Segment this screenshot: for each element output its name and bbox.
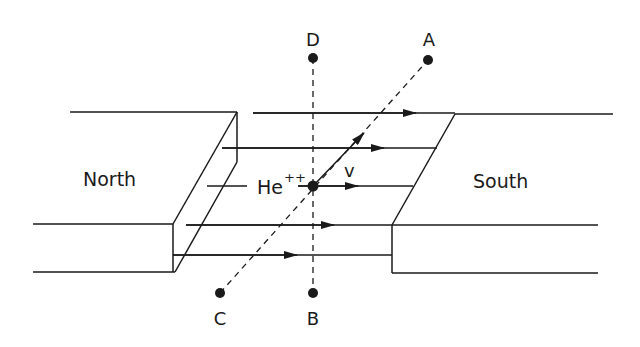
label-particle: He	[257, 176, 283, 198]
label-a: A	[423, 29, 436, 50]
south-pole-block	[392, 114, 613, 273]
label-c: C	[214, 308, 227, 329]
point-d-dot	[308, 53, 318, 63]
point-b-dot	[308, 288, 318, 298]
label-velocity: v	[344, 160, 355, 181]
path-ca-dashed	[220, 60, 428, 293]
label-d: D	[306, 29, 320, 50]
magnetic-field-diagram: D A C B North South He ++ v	[0, 0, 640, 347]
label-south: South	[473, 170, 528, 192]
point-c-dot	[215, 288, 225, 298]
label-north: North	[83, 168, 136, 190]
north-pole-block	[33, 112, 237, 272]
helium-ion-dot	[308, 181, 319, 192]
point-a-dot	[423, 55, 433, 65]
velocity-arrow	[313, 133, 364, 186]
label-charge: ++	[284, 170, 306, 185]
label-b: B	[307, 308, 319, 329]
